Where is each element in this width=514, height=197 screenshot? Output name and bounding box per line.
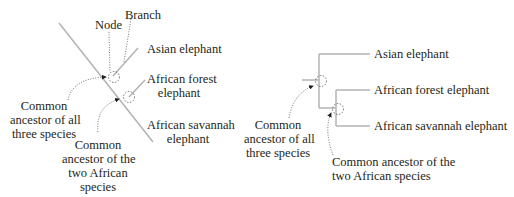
ancestor-african-label-right: Common ancestor of the two African speci… (332, 155, 455, 183)
ancestor-african-line3: two African (62, 166, 134, 180)
asian-label: Asian elephant (147, 42, 222, 56)
ancestor-all-line2: ancestor of all (10, 113, 78, 127)
ancestor-african-arrow (98, 99, 119, 132)
forest-label-right: African forest elephant (374, 83, 489, 97)
savannah-label-right: African savannah elephant (374, 119, 507, 133)
node-circle-all (109, 72, 120, 83)
ancestor-african-line1: Common (62, 138, 134, 152)
ancestor-african-line4: species (62, 180, 134, 194)
ancestor-african-right-line2: two African species (332, 169, 455, 183)
ancestor-all-label: Common ancestor of all three species (10, 99, 78, 141)
ancestor-all-arrow-right (289, 86, 313, 118)
node-pointer (109, 32, 110, 72)
ancestor-african-line2: ancestor of the (62, 152, 134, 166)
savannah-label-line1: African savannah (147, 118, 229, 132)
ancestor-all-label-right: Common ancestor of all three species (244, 118, 312, 160)
node-label: Node (95, 18, 122, 32)
forest-branch-line (129, 80, 145, 97)
node-circle-african-right (333, 104, 344, 115)
forest-label-line2: elephant (147, 86, 211, 100)
ancestor-african-label: Common ancestor of the two African speci… (62, 138, 134, 194)
ancestor-all-line1: Common (10, 99, 78, 113)
ancestor-african-right-line1: Common ancestor of the (332, 155, 455, 169)
branch-pointer (124, 19, 131, 62)
branch-label: Branch (125, 8, 161, 22)
ancestor-all-right-line2: ancestor of all (244, 132, 312, 146)
ancestor-all-right-line3: three species (244, 146, 312, 160)
asian-label-right: Asian elephant (374, 47, 449, 61)
savannah-label-line2: elephant (147, 132, 229, 146)
ancestor-all-arrow (68, 77, 106, 100)
savannah-label: African savannah elephant (147, 118, 229, 146)
forest-label-line1: African forest (147, 72, 211, 86)
node-circle-all-right (316, 76, 327, 87)
forest-label: African forest elephant (147, 72, 211, 100)
ancestor-all-right-line1: Common (244, 118, 312, 132)
ancestor-african-arrow-right (328, 113, 333, 155)
